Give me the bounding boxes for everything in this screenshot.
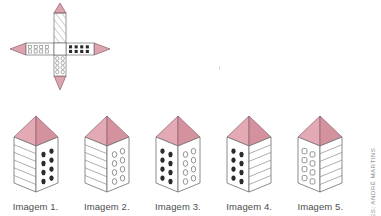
building-4 (214, 112, 285, 200)
wall-left (227, 137, 249, 192)
net-face-right (66, 43, 94, 55)
net-roof-left (10, 43, 26, 55)
wall-left (298, 137, 320, 192)
illustration-credit: ILUSTRAÇÕES: ANDRÉ MARTINS (366, 88, 380, 206)
building-1 (0, 112, 71, 200)
stray-speck (219, 66, 220, 70)
net-roof-bottom (54, 76, 66, 90)
illustration-figure: Imagem 1. Imagem 2. Imagem 3. Imagem 4. … (0, 0, 381, 216)
building-2-svg (79, 112, 135, 200)
wall-right (178, 137, 200, 192)
caption-building-4: Imagem 4. (214, 200, 285, 216)
unfolded-net (8, 2, 113, 100)
caption-building-5: Imagem 5. (285, 200, 356, 216)
net-face-top (54, 13, 66, 43)
unfolded-net-svg (8, 2, 113, 100)
wall-right (36, 137, 58, 192)
illustration-credit-text: ILUSTRAÇÕES: ANDRÉ MARTINS (370, 148, 377, 216)
captions-row: Imagem 1. Imagem 2. Imagem 3. Imagem 4. … (0, 200, 356, 216)
net-roof-right (94, 43, 110, 55)
building-3-svg (150, 112, 206, 200)
net-roof-top (54, 3, 66, 13)
building-5 (285, 112, 356, 200)
building-4-svg (221, 112, 277, 200)
net-face-center (54, 43, 66, 55)
caption-building-3: Imagem 3. (142, 200, 213, 216)
building-2 (71, 112, 142, 200)
caption-building-1: Imagem 1. (0, 200, 71, 216)
buildings-row (0, 112, 356, 200)
caption-building-2: Imagem 2. (71, 200, 142, 216)
building-1-svg (8, 112, 64, 200)
wall-left (156, 137, 178, 192)
building-5-svg (292, 112, 348, 200)
wall-right (107, 137, 129, 192)
building-3 (142, 112, 213, 200)
